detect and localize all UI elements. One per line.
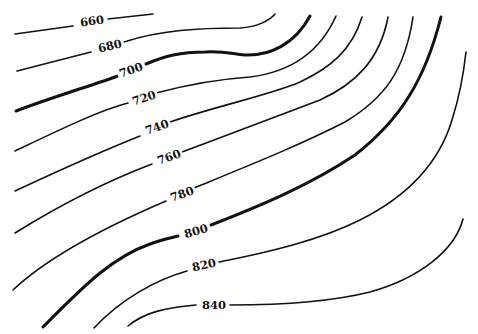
contour-label-660: 660 (77, 13, 106, 29)
contour-line-700 (16, 16, 310, 111)
contour-label-840: 840 (200, 299, 228, 311)
contour-line-720 (15, 16, 336, 151)
contour-line-800 (43, 17, 441, 327)
contour-map: 660 680 700 720 740 760 780 800 820 840 (0, 0, 478, 334)
contour-lines (0, 0, 478, 334)
contour-line-780 (13, 17, 413, 290)
